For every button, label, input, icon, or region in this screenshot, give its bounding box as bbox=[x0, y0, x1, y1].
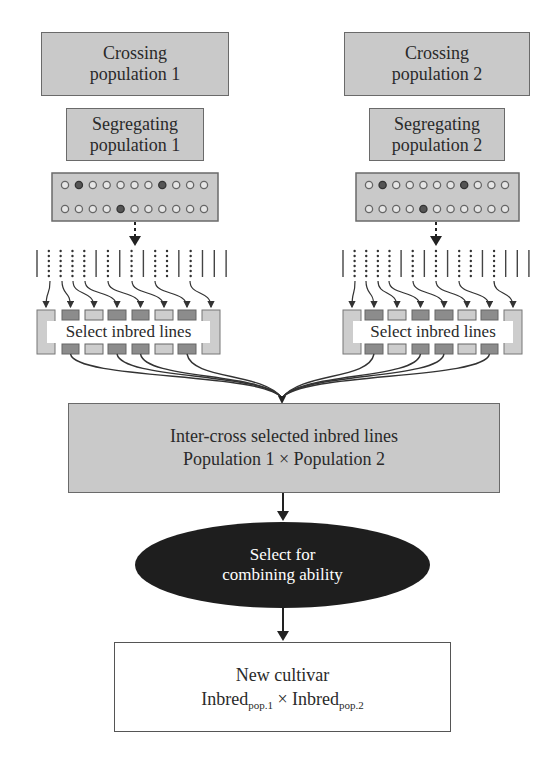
cultivar-formula: Inbredpop.1 × Inbredpop.2 bbox=[201, 687, 364, 711]
seed-dot bbox=[406, 181, 413, 188]
segregating-population-2-line2: population 2 bbox=[392, 135, 483, 156]
seed-dot bbox=[61, 205, 68, 212]
seed-dot bbox=[420, 181, 427, 188]
seed-dot bbox=[145, 181, 152, 188]
seed-dot bbox=[89, 205, 96, 212]
crossing-population-1-box: Crossing population 1 bbox=[41, 32, 229, 96]
seed-dot bbox=[406, 205, 413, 212]
seed-dot bbox=[131, 181, 138, 188]
seed-dot bbox=[365, 205, 372, 212]
segregating-population-1-line2: population 1 bbox=[90, 135, 181, 156]
seed-dot bbox=[187, 205, 194, 212]
selection-line1: Select for bbox=[250, 545, 316, 565]
selection-arrows-left bbox=[46, 281, 211, 307]
seed-dot bbox=[131, 205, 138, 212]
select-inbred-lines-label-right: Select inbred lines bbox=[353, 321, 513, 343]
seed-dot bbox=[200, 205, 207, 212]
seed-dot bbox=[145, 205, 152, 212]
crossing-population-2-box: Crossing population 2 bbox=[344, 32, 530, 96]
seed-dot bbox=[159, 181, 166, 188]
segregating-population-2-box: Segregating population 2 bbox=[369, 108, 505, 161]
seed-dot bbox=[379, 181, 386, 188]
seed-dot bbox=[173, 205, 180, 212]
seed-dot bbox=[117, 181, 124, 188]
seed-dot bbox=[89, 181, 96, 188]
crossing-population-1-line1: Crossing bbox=[103, 43, 167, 64]
selection-line2: combining ability bbox=[222, 565, 342, 585]
seed-dot bbox=[379, 205, 386, 212]
seed-dot bbox=[61, 181, 68, 188]
intercross-connectors bbox=[71, 354, 490, 398]
new-cultivar-box: New cultivar Inbredpop.1 × Inbredpop.2 bbox=[114, 642, 451, 732]
seed-dot bbox=[365, 181, 372, 188]
new-cultivar-title: New cultivar bbox=[236, 663, 329, 687]
seed-dot bbox=[488, 181, 495, 188]
combining-ability-selection-ellipse: Select for combining ability bbox=[135, 522, 430, 608]
dotted-arrow-right bbox=[430, 222, 442, 246]
seed-dot bbox=[187, 181, 194, 188]
seed-dot bbox=[447, 205, 454, 212]
seed-dot bbox=[461, 205, 468, 212]
seed-dot bbox=[461, 181, 468, 188]
seed-dot bbox=[501, 205, 508, 212]
seed-dots-box-left bbox=[52, 173, 218, 221]
arrow-intercross-to-selection bbox=[277, 493, 289, 521]
seed-dot bbox=[420, 205, 427, 212]
dotted-arrow-left bbox=[129, 222, 141, 246]
inbred-line-columns-left bbox=[37, 250, 226, 277]
seed-dot bbox=[75, 181, 82, 188]
segregating-population-1-box: Segregating population 1 bbox=[66, 108, 204, 161]
seed-dot bbox=[433, 181, 440, 188]
select-inbred-lines-label-left: Select inbred lines bbox=[47, 321, 210, 343]
crossing-population-1-line2: population 1 bbox=[90, 64, 181, 85]
arrow-selection-to-cultivar bbox=[277, 608, 289, 641]
seed-dot bbox=[173, 181, 180, 188]
selection-arrows-right bbox=[352, 281, 513, 307]
seed-dot bbox=[433, 205, 440, 212]
seed-dot bbox=[474, 181, 481, 188]
seed-dot bbox=[103, 181, 110, 188]
seed-dot bbox=[488, 205, 495, 212]
seed-dot bbox=[159, 205, 166, 212]
seed-dots-box-right bbox=[356, 173, 519, 221]
intercross-line2: Population 1 × Population 2 bbox=[183, 448, 385, 471]
seed-dot bbox=[474, 205, 481, 212]
seed-dot bbox=[447, 181, 454, 188]
seed-dot bbox=[200, 181, 207, 188]
seed-dot bbox=[501, 181, 508, 188]
crossing-population-2-line2: population 2 bbox=[392, 64, 483, 85]
crossing-population-2-line1: Crossing bbox=[405, 43, 469, 64]
seed-dot bbox=[103, 205, 110, 212]
intercross-box: Inter-cross selected inbred lines Popula… bbox=[68, 403, 500, 493]
seed-dot bbox=[117, 205, 124, 212]
seed-dot bbox=[393, 181, 400, 188]
intercross-line1: Inter-cross selected inbred lines bbox=[170, 425, 398, 448]
segregating-population-2-line1: Segregating bbox=[394, 114, 480, 135]
seed-dot bbox=[393, 205, 400, 212]
seed-dot bbox=[75, 205, 82, 212]
segregating-population-1-line1: Segregating bbox=[92, 114, 178, 135]
inbred-line-columns-right bbox=[343, 250, 529, 277]
